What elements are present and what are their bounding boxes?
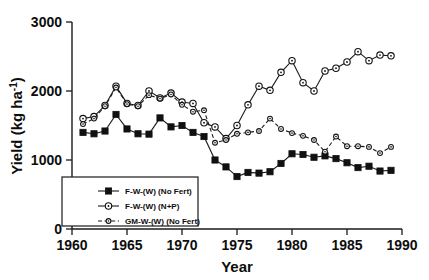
data-point-center (247, 132, 249, 134)
data-point-center (126, 103, 128, 105)
x-tick-label: 1970 (166, 237, 197, 253)
data-point-center (324, 70, 326, 72)
data-point (157, 115, 163, 121)
data-point-center (93, 118, 95, 120)
data-point-center (82, 123, 84, 125)
data-point-center (159, 98, 161, 100)
data-point-center (148, 94, 150, 96)
data-point-center (82, 118, 84, 120)
x-tick-label: 1975 (221, 237, 252, 253)
data-point-center (192, 111, 194, 113)
data-point (344, 160, 350, 166)
y-axis-title-close: ) (8, 77, 25, 82)
data-point-center (247, 104, 249, 106)
data-point-center (302, 82, 304, 84)
data-point-center (357, 145, 359, 147)
data-point-center (313, 139, 315, 141)
data-point-center (214, 126, 216, 128)
data-point (212, 157, 218, 163)
data-point (289, 151, 295, 157)
data-point-center (269, 89, 271, 91)
data-point-center (104, 105, 106, 107)
data-point-center (368, 60, 370, 62)
data-point-center (291, 132, 293, 134)
data-point-center (346, 145, 348, 147)
data-point (333, 156, 339, 162)
data-point-center (258, 130, 260, 132)
data-point (278, 160, 284, 166)
data-point (234, 173, 240, 179)
x-axis-ticks: 1960196519701975198019851990 (56, 229, 417, 253)
data-point (223, 164, 229, 170)
legend-swatch-marker-1 (105, 188, 111, 194)
data-point (113, 111, 119, 117)
data-point-center (170, 94, 172, 96)
data-point (267, 169, 273, 175)
data-point-center (137, 105, 139, 107)
yield-vs-year-line-chart: 0100020003000 19601965197019751980198519… (0, 0, 429, 280)
data-series-layer (80, 48, 394, 179)
legend-swatch-marker-2-center (108, 205, 110, 207)
data-point (245, 169, 251, 175)
x-axis-title: Year (221, 258, 253, 275)
legend-label-2: F-W-(W) (N+P) (125, 202, 180, 211)
data-point (168, 124, 174, 130)
data-point (355, 164, 361, 170)
y-tick-label: 2000 (31, 83, 62, 99)
data-point-center (115, 87, 117, 89)
data-point (179, 122, 185, 128)
data-point-center (324, 151, 326, 153)
data-point (124, 126, 130, 132)
chart-legend: F-W-(W) (No Fert)F-W-(W) (N+P)GM-W-(W) (… (62, 177, 200, 226)
data-point-center (280, 128, 282, 130)
data-point-center (302, 135, 304, 137)
data-point-center (236, 133, 238, 135)
y-tick-label: 1000 (31, 152, 62, 168)
data-point-center (357, 51, 359, 53)
data-point-center (269, 118, 271, 120)
y-axis-title: Yield (kg ha-1) (8, 77, 25, 175)
data-point (91, 131, 97, 137)
data-point (102, 128, 108, 134)
data-point (190, 129, 196, 135)
data-point-center (192, 103, 194, 105)
data-point-center (346, 61, 348, 63)
data-point-center (280, 71, 282, 73)
data-point-center (379, 152, 381, 154)
legend-swatch-marker-3-center (108, 220, 110, 222)
y-tick-label: 0 (54, 221, 62, 237)
data-point-center (236, 125, 238, 127)
data-point (388, 167, 394, 173)
data-point (201, 133, 207, 139)
data-point (256, 170, 262, 176)
data-point (311, 154, 317, 160)
data-point-center (335, 136, 337, 138)
data-point (366, 163, 372, 169)
y-axis-title-group: Yield (kg ha-1) (8, 77, 25, 175)
data-point-center (258, 85, 260, 87)
x-tick-label: 1960 (56, 237, 87, 253)
x-tick-label: 1980 (276, 237, 307, 253)
x-tick-label: 1985 (331, 237, 362, 253)
data-point (377, 168, 383, 174)
series-path-3 (83, 88, 391, 154)
data-point-center (379, 54, 381, 56)
data-point-center (225, 139, 227, 141)
data-point (135, 131, 141, 137)
data-point-center (390, 146, 392, 148)
data-point-center (214, 142, 216, 144)
y-axis-title-main: Yield (kg ha (8, 90, 25, 174)
legend-label-1: F-W-(W) (No Fert) (125, 187, 192, 196)
x-tick-label: 1990 (386, 237, 417, 253)
data-point-center (148, 90, 150, 92)
chart-figure: 0100020003000 19601965197019751980198519… (0, 0, 429, 280)
data-point (146, 131, 152, 137)
data-point-center (313, 90, 315, 92)
y-tick-label: 3000 (31, 14, 62, 30)
x-tick-label: 1965 (111, 237, 142, 253)
data-point-center (291, 60, 293, 62)
data-point-center (181, 104, 183, 106)
data-point-center (390, 55, 392, 57)
data-point-center (203, 110, 205, 112)
data-point (300, 151, 306, 157)
